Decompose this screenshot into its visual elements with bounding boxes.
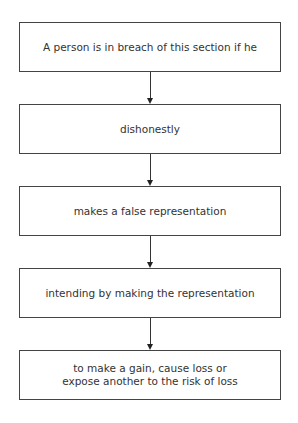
connector-line [150,72,151,98]
connector-line [150,236,151,262]
connector-line [150,154,151,180]
node-label: to make a gain, cause loss or expose ano… [60,362,240,388]
node-intending: intending by making the representation [19,268,281,318]
node-label: intending by making the representation [45,287,254,300]
node-breach-condition: A person is in breach of this section if… [19,22,281,72]
connector-line [150,318,151,344]
node-false-representation: makes a false representation [19,186,281,236]
node-label: A person is in breach of this section if… [43,41,257,54]
node-label: makes a false representation [74,205,227,218]
node-label: dishonestly [120,123,180,136]
node-gain-or-loss: to make a gain, cause loss or expose ano… [19,350,281,400]
node-dishonestly: dishonestly [19,104,281,154]
